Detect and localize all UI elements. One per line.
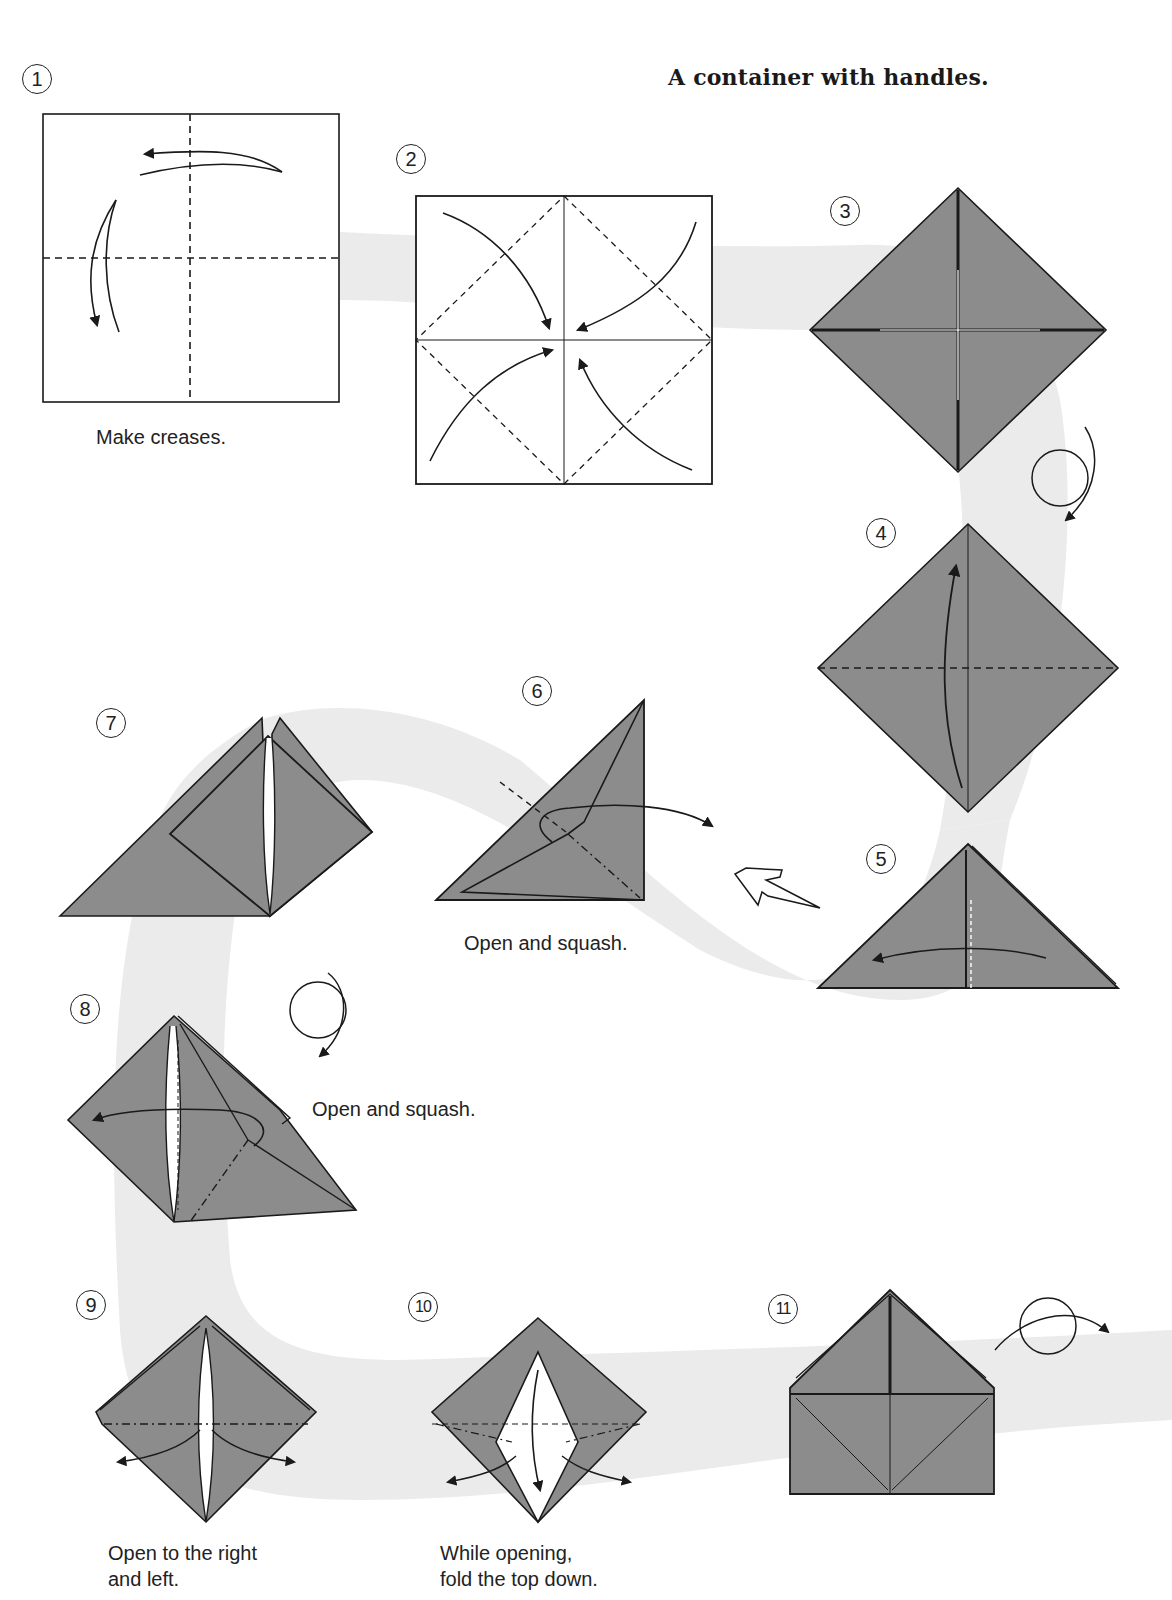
step-6-number: 6 [522,676,552,706]
step-9-caption: Open to the right and left. [108,1540,257,1592]
step-1-diagram [43,114,339,402]
repeat-arrow-icon [735,868,820,908]
step-8-number: 8 [70,994,100,1024]
step-10-caption-line-2: fold the top down. [440,1566,598,1592]
step-11-number: 11 [768,1294,798,1324]
step-9-number: 9 [76,1290,106,1320]
step-9-caption-line-2: and left. [108,1566,257,1592]
origami-instruction-page: A container with handles. 1 2 3 4 5 6 7 … [0,0,1172,1600]
step-5-number: 5 [866,844,896,874]
step-4-diagram [818,524,1118,812]
step-10-caption: While opening, fold the top down. [440,1540,598,1592]
step-4-number: 4 [866,518,896,548]
step-9-caption-line-1: Open to the right [108,1540,257,1566]
step-2-diagram [416,196,712,484]
step-10-caption-line-1: While opening, [440,1540,598,1566]
step-10-number: 10 [408,1292,438,1322]
step-6-caption: Open and squash. [464,930,627,956]
diagram-canvas [0,0,1172,1600]
step-7-number: 7 [96,708,126,738]
step-1-caption: Make creases. [96,424,226,450]
step-3-number: 3 [830,196,860,226]
step-1-number: 1 [22,64,52,94]
turn-over-icon [290,973,346,1056]
page-title: A container with handles. [668,64,989,90]
step-5-diagram [735,844,1118,988]
step-8-caption: Open and squash. [312,1096,475,1122]
step-2-number: 2 [396,144,426,174]
